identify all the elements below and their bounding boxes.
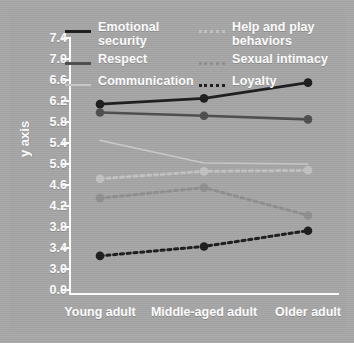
legend-label: Loyalty	[232, 75, 276, 89]
data-point-marker	[200, 167, 209, 176]
figure-container: Emotional security Respect Communication…	[0, 0, 354, 343]
data-point-marker	[96, 252, 105, 261]
x-axis-tick-label: Young adult	[64, 305, 135, 319]
y-axis-tick-label: 6.6	[50, 73, 67, 87]
data-point-marker	[200, 111, 209, 120]
legend-item-communication: Communication	[65, 75, 210, 92]
y-axis-tick-label: 5.0	[50, 157, 67, 171]
chart-plate: Emotional security Respect Communication…	[9, 9, 345, 334]
legend-label: Emotional security	[98, 21, 210, 48]
x-axis-tick-label: Older adult	[275, 305, 341, 319]
legend-item-help-and-play-behaviors: Help and play behaviors	[199, 21, 344, 48]
legend-swatch-solid-line-icon	[65, 78, 91, 92]
legend-item-respect: Respect	[65, 53, 210, 70]
legend-swatch-solid-line-icon	[65, 56, 91, 70]
series-communication	[100, 140, 308, 164]
y-axis-tick-label: 4.6	[50, 178, 67, 192]
data-point-marker	[96, 100, 105, 109]
data-point-marker	[304, 226, 313, 235]
data-point-marker	[96, 108, 105, 117]
y-axis-tick-label: 7.0	[50, 52, 67, 66]
y-axis-tick-label: 5.4	[50, 136, 67, 150]
x-axis-tick-label: Middle-aged adult	[151, 305, 257, 319]
legend-item-loyalty: Loyalty	[199, 75, 344, 92]
y-axis-tick-label: 3.4	[50, 241, 67, 255]
legend-label: Sexual intimacy	[232, 53, 328, 67]
data-point-marker	[96, 194, 105, 203]
data-point-marker	[304, 211, 313, 220]
legend-column-left: Emotional security Respect Communication	[65, 21, 210, 97]
y-axis-tick-label: 6.2	[50, 94, 67, 108]
data-point-marker	[96, 174, 105, 183]
legend-column-right: Help and play behaviors Sexual intimacy …	[199, 21, 344, 97]
legend-item-sexual-intimacy: Sexual intimacy	[199, 53, 344, 70]
series-respect	[96, 108, 313, 123]
data-point-marker	[304, 115, 313, 124]
legend-label: Help and play behaviors	[232, 21, 344, 48]
data-point-marker	[304, 166, 313, 175]
series-line	[100, 140, 308, 164]
series-loyalty	[96, 226, 313, 260]
y-axis-tick-label: 5.8	[50, 115, 67, 129]
y-axis-tick-label: 3.8	[50, 220, 67, 234]
legend-item-emotional-security: Emotional security	[65, 21, 210, 48]
legend-label: Communication	[98, 75, 194, 89]
legend-swatch-solid-line-icon	[65, 24, 91, 38]
series-sexual-intimacy	[96, 183, 313, 219]
y-axis-tick-label: 7.4	[50, 31, 67, 45]
legend-swatch-dashed-line-icon	[199, 78, 225, 92]
x-axis-line	[69, 293, 339, 295]
data-point-marker	[200, 242, 209, 251]
y-axis-tick-label: 3.0	[50, 262, 67, 276]
y-axis-tick-label: 4.2	[50, 199, 67, 213]
data-point-marker	[200, 183, 209, 192]
legend-swatch-dashed-line-icon	[199, 56, 225, 70]
y-axis-tick-label: 0.0	[50, 283, 67, 297]
legend-label: Respect	[98, 53, 147, 67]
series-help-and-play-behaviors	[96, 166, 313, 183]
legend-swatch-dashed-line-icon	[199, 24, 225, 38]
y-axis-tick-labels: 7.47.06.66.25.85.45.04.64.23.83.43.00.0	[25, 9, 67, 334]
